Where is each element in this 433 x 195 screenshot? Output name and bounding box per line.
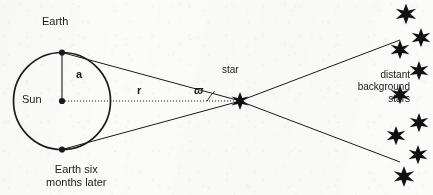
label-earth-six-months-later: Earth six months later: [46, 163, 107, 189]
label-distance-r: r: [137, 84, 141, 97]
label-earth-six-line2: months later: [46, 176, 107, 189]
label-distant-line3: stars: [340, 93, 410, 105]
ray-star-to-lower-background: [240, 101, 401, 162]
sightline-earth-bottom-to-star: [62, 101, 241, 150]
sightline-earth-top-to-star: [62, 53, 241, 102]
label-sun: Sun: [22, 93, 42, 106]
background-star-icon: [394, 166, 414, 187]
label-earth-six-line1: Earth six: [46, 163, 107, 176]
background-star-icon: [412, 28, 431, 47]
background-star-icon: [410, 61, 429, 80]
earth-point-six-months-later: [59, 146, 65, 152]
label-distant-line2: background: [340, 81, 410, 93]
label-parallax-angle: ϖ: [194, 84, 203, 97]
background-star-icon: [409, 145, 428, 164]
label-distant-background-stars: distant background stars: [340, 69, 410, 104]
label-earth: Earth: [42, 15, 68, 28]
background-star-icon: [410, 113, 429, 132]
label-star: star: [222, 64, 239, 76]
sun-point: [59, 98, 65, 104]
earth-point-top: [59, 49, 65, 55]
label-semi-major-axis: a: [76, 68, 82, 81]
background-star-icon: [396, 4, 416, 25]
label-distant-line1: distant: [340, 69, 410, 81]
parallax-diagram-figure: Earth Sun a r ϖ star Earth six months la…: [0, 0, 433, 195]
background-star-icon: [387, 126, 406, 145]
